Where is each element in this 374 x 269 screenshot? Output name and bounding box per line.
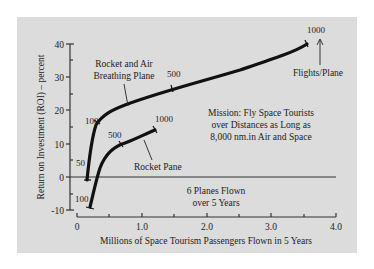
roi-chart: Return on Investment (ROI) – percent Mil… [0, 0, 374, 269]
svg-text:40: 40 [55, 40, 65, 50]
flights-per-plane-label: Flights/Plane [293, 68, 343, 78]
series1-label-line1: Rocket and Air [95, 59, 153, 69]
y-tick-labels: 40 30 20 10 0 -10 [51, 40, 64, 216]
svg-text:0: 0 [59, 173, 64, 183]
x-axis [77, 213, 336, 217]
series1-label-line2: Breathing Plane [94, 71, 155, 81]
x-axis-label: Millions of Space Tourism Passengers Flo… [100, 236, 312, 246]
svg-text:Mission: Fly Space Tourists: Mission: Fly Space Tourists [208, 108, 314, 118]
svg-text:4.0: 4.0 [330, 222, 342, 232]
svg-text:30: 30 [55, 73, 65, 83]
svg-text:100: 100 [75, 194, 89, 204]
x-tick-labels: 0 1.0 2.0 3.0 4.0 [75, 222, 343, 232]
series2-label: Rocket Pane [134, 162, 182, 172]
svg-text:over 5 Years: over 5 Years [192, 198, 240, 208]
svg-text:1000: 1000 [307, 25, 326, 35]
svg-text:0: 0 [75, 222, 80, 232]
y-axis [66, 44, 74, 210]
planes-annotation: 6 Planes Flown over 5 Years [187, 186, 246, 208]
svg-text:over Distances as Long as: over Distances as Long as [211, 120, 310, 130]
mission-annotation: Mission: Fly Space Tourists over Distanc… [208, 108, 314, 142]
svg-text:3.0: 3.0 [265, 222, 277, 232]
svg-text:1000: 1000 [155, 114, 174, 124]
svg-text:500: 500 [167, 69, 181, 79]
svg-text:8,000 nm.in Air and Space: 8,000 nm.in Air and Space [210, 132, 311, 142]
svg-text:20: 20 [55, 106, 65, 116]
svg-text:100: 100 [85, 116, 99, 126]
y-axis-label: Return on Investment (ROI) – percent [36, 54, 47, 199]
svg-text:50: 50 [76, 158, 86, 168]
svg-text:1.0: 1.0 [136, 222, 148, 232]
svg-text:6 Planes Flown: 6 Planes Flown [187, 186, 246, 196]
svg-text:2.0: 2.0 [201, 222, 213, 232]
svg-text:-10: -10 [51, 206, 64, 216]
svg-text:10: 10 [55, 140, 65, 150]
svg-text:500: 500 [108, 130, 122, 140]
